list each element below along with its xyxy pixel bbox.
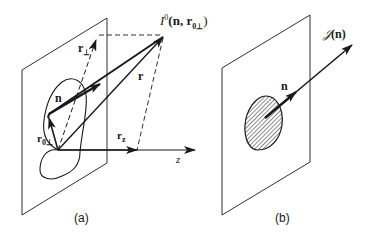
hatched-aperture-b (245, 96, 282, 150)
intensity-close: ) (203, 13, 207, 28)
label-r-perp: r⊥ (78, 42, 90, 57)
label-z-axis: z (176, 154, 180, 165)
label-J: 𝒥(n) (323, 28, 346, 40)
r-perp-sub: ⊥ (83, 48, 90, 57)
label-rz: rz (117, 130, 125, 144)
rz-sub: z (122, 135, 126, 144)
label-r: r (138, 70, 143, 82)
label-intensity: I0(n, r0⊥) (160, 14, 208, 31)
J-symbol: 𝒥 (323, 27, 331, 41)
label-n-b: n (281, 80, 288, 92)
figure-canvas (0, 0, 368, 239)
intensity-args: (n, r (168, 13, 192, 28)
plane-a (22, 18, 107, 215)
label-n-a: n (55, 92, 62, 104)
intensity-args-sub: 0⊥ (192, 22, 203, 31)
panel-a (22, 18, 195, 215)
label-r0perp: r0⊥ (37, 133, 53, 147)
caption-a: (a) (74, 212, 89, 224)
caption-b: (b) (275, 212, 290, 224)
r0perp-n-join (48, 114, 49, 118)
r-vector (58, 37, 163, 150)
r0perp-sub: 0⊥ (42, 138, 53, 147)
panel-b (222, 15, 352, 215)
n-to-I-line (49, 37, 163, 114)
dashed-right (137, 38, 163, 150)
J-args: (n) (331, 27, 346, 41)
